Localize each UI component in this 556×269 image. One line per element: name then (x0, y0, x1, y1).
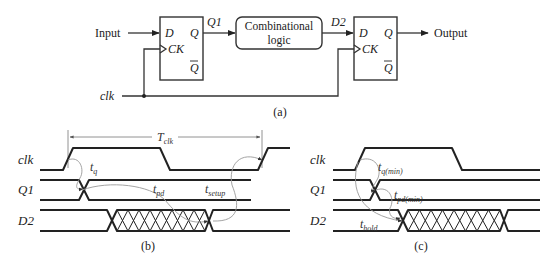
clk-branch-wire (144, 49, 160, 96)
junction-dot (142, 94, 146, 98)
logic-label-line1: Combinational (245, 20, 313, 32)
signal-label-clk: clk (18, 152, 33, 167)
thold-label: thold (360, 217, 379, 233)
signal-label-q1: Q1 (310, 182, 326, 197)
caption-a: (a) (273, 105, 286, 119)
clk-waveform (40, 148, 290, 170)
logic-label-line2: logic (268, 34, 291, 47)
input-label: Input (95, 26, 121, 40)
d2-waveform (40, 210, 290, 231)
tq-label: tq (90, 160, 97, 176)
signal-label-clk: clk (310, 152, 325, 167)
q1-waveform (333, 180, 540, 200)
tpd-min-label: tpd(min) (394, 188, 423, 204)
tsetup-label: tsetup (205, 182, 225, 198)
ff1-q-pin: Q (190, 26, 199, 40)
ff1-ck-pin: CK (168, 42, 185, 56)
tq-min-label: tq(min) (378, 160, 403, 176)
period-label: Tclk (157, 130, 173, 146)
ff1-qbar-pin: Q (190, 61, 199, 75)
signal-label-q1: Q1 (18, 182, 34, 197)
clk-label: clk (100, 89, 115, 103)
timing-diagram-c: clk Q1 D2 tq(min) tpd(min) thold (c) (309, 148, 540, 253)
timing-diagram-figure: Input D Q CK Q Q1 Combinational logic D2… (0, 0, 556, 269)
timing-diagram-b: clk Q1 D2 Tclk tq tpd tsetup (b) (17, 130, 290, 253)
clk-wire (122, 49, 354, 96)
caption-c: (c) (414, 239, 427, 253)
flip-flop-2: D Q CK Q (354, 17, 397, 80)
d2-net-label: D2 (330, 15, 346, 29)
ff1-d-pin: D (164, 26, 174, 40)
q1-net-label: Q1 (207, 15, 222, 29)
combinational-logic-block: Combinational logic (236, 17, 322, 49)
ff2-q-pin: Q (384, 26, 393, 40)
ff2-d-pin: D (358, 26, 368, 40)
output-label: Output (434, 26, 468, 40)
signal-label-d2: D2 (309, 213, 326, 228)
ff2-ck-pin: CK (362, 42, 379, 56)
ff2-qbar-pin: Q (384, 61, 393, 75)
flip-flop-1: D Q CK Q (160, 17, 203, 80)
signal-label-d2: D2 (17, 213, 34, 228)
circuit-schematic: Input D Q CK Q Q1 Combinational logic D2… (95, 15, 468, 119)
caption-b: (b) (141, 239, 155, 253)
tpd-label: tpd (153, 182, 165, 198)
